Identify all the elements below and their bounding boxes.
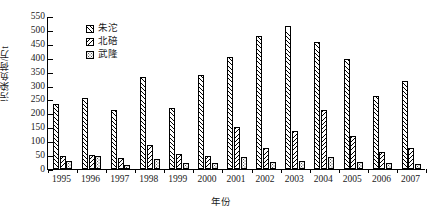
bar [373,96,379,169]
bar [111,110,117,169]
bar [408,148,414,169]
x-tick-label: 2002 [251,174,280,184]
x-tick-mark [48,169,49,173]
x-tick-label: 2005 [338,174,367,184]
bar [66,161,72,169]
bar [379,152,385,169]
y-tick-label: 50 [13,149,45,161]
y-tick-label: 400 [13,52,45,64]
bar [357,162,363,169]
bar [292,131,298,169]
bar [415,164,421,169]
bar [82,98,88,169]
bar-group [164,16,193,169]
x-tick-mark [397,169,398,173]
bar [227,57,233,169]
x-tick-label: 2007 [396,174,425,184]
bar [344,59,350,169]
bar [314,42,320,169]
bar [53,104,59,169]
bar [198,75,204,169]
x-tick-label: 2001 [221,174,250,184]
bar [147,145,153,169]
y-tick-label: 0 [13,163,45,175]
x-tick-mark [252,169,253,173]
y-tick-label: 200 [13,107,45,119]
bar [299,161,305,169]
bar-group [397,16,426,169]
x-tick-mark [222,169,223,173]
y-tick-label: 300 [13,80,45,92]
y-tick-label: 500 [13,24,45,36]
bar [328,157,334,169]
bar-group [310,16,339,169]
bar [234,127,240,169]
x-tick-mark [135,169,136,173]
x-tick-label: 1996 [76,174,105,184]
x-tick-mark [310,169,311,173]
bar [402,81,408,169]
x-axis-title: 年份 [0,194,442,208]
bar [212,163,218,169]
x-tick-label: 2004 [309,174,338,184]
bar [256,36,262,169]
bar [241,157,247,169]
bar [169,108,175,169]
bar [350,136,356,169]
legend-item-朱沱: 朱沱 [86,22,118,35]
x-tick-mark [368,169,369,173]
legend-label: 武隆 [98,48,118,61]
x-tick-mark [281,169,282,173]
x-tick-label: 2003 [280,174,309,184]
bar [183,163,189,169]
bar [140,77,146,169]
bar-group [193,16,222,169]
bar [270,162,276,169]
x-tick-mark [106,169,107,173]
bar [95,156,101,169]
x-tick-label: 1998 [134,174,163,184]
y-tick-label: 450 [13,38,45,50]
bar-group [281,16,310,169]
x-tick-mark [426,169,427,173]
bar [89,155,95,169]
bar [176,154,182,169]
legend-swatch-icon [86,38,94,46]
bar [60,156,66,169]
bar [263,148,269,169]
bar [154,159,160,169]
x-tick-label: 1999 [163,174,192,184]
bar-group [48,16,77,169]
y-tick-label: 550 [13,10,45,22]
bar-group [222,16,251,169]
bar [205,156,211,169]
x-tick-mark [164,169,165,173]
y-tick-label: 250 [13,93,45,105]
x-tick-mark [77,169,78,173]
bar [386,163,392,169]
bar-group [252,16,281,169]
bar [285,26,291,169]
legend-label: 北碚 [98,35,118,48]
y-axis-title: 污染负荷/万t [0,46,12,101]
legend-swatch-icon [86,51,94,59]
y-tick-label: 100 [13,135,45,147]
y-tick-label: 350 [13,66,45,78]
legend-item-武隆: 武隆 [86,48,118,61]
y-tick-label: 150 [13,121,45,133]
chart-legend: 朱沱北碚武隆 [86,22,118,61]
x-tick-label: 2000 [192,174,221,184]
x-tick-label: 1997 [105,174,134,184]
bar [118,158,124,169]
legend-item-北碚: 北碚 [86,35,118,48]
bar [124,165,130,169]
x-tick-mark [339,169,340,173]
pollution-load-bar-chart: 污染负荷/万t 05010015020025030035040045050055… [0,0,442,210]
bar-group [135,16,164,169]
x-tick-label: 2006 [367,174,396,184]
legend-swatch-icon [86,25,94,33]
legend-label: 朱沱 [98,22,118,35]
x-tick-mark [193,169,194,173]
x-tick-label: 1995 [47,174,76,184]
bar-group [339,16,368,169]
